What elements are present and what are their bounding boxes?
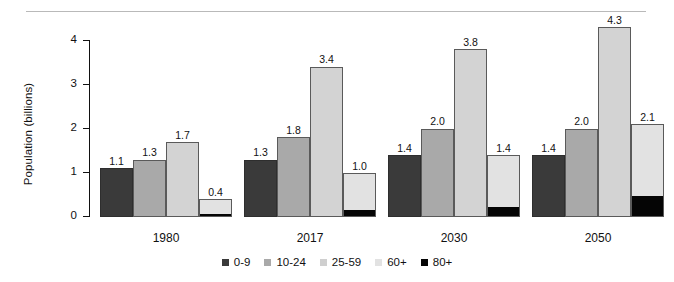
bar-2050-0-9[interactable] [532,155,565,217]
legend-label-10-24: 10-24 [276,256,305,268]
bar-2030-60plus[interactable] [487,155,520,217]
legend-label-60plus: 60+ [387,256,407,268]
bar-1980-25-59[interactable] [166,142,199,217]
legend-swatch-icon-80plus [421,259,428,266]
bar-1980-10-24[interactable] [133,160,166,218]
legend-swatch-icon-0-9 [222,259,229,266]
bar-label-2030-10-24: 2.0 [421,115,454,127]
bar-label-2050-60plus: 2.1 [631,111,664,123]
y-tick-label-0: 0 [57,209,77,221]
bar-label-2030-25-59: 3.8 [454,36,487,48]
bar-2030-80plus-segment[interactable] [488,207,519,216]
legend-item-10-24[interactable]: 10-24 [264,256,305,268]
y-tick-label-3: 3 [57,77,77,89]
bar-label-2030-60plus: 1.4 [487,142,520,154]
legend-item-25-59[interactable]: 25-59 [320,256,361,268]
bar-1980-80plus-segment[interactable] [200,214,231,216]
legend-item-60plus[interactable]: 60+ [375,256,407,268]
bar-label-2017-0-9: 1.3 [244,146,277,158]
bar-2017-0-9[interactable] [244,160,277,218]
bar-label-2050-25-59: 4.3 [598,14,631,26]
legend-label-25-59: 25-59 [332,256,361,268]
bar-2050-80plus-segment[interactable] [632,196,663,216]
x-axis-label-2050: 2050 [548,231,648,245]
bar-2017-25-59[interactable] [310,67,343,217]
chart-legend: 0-9 10-24 25-59 60+ 80+ [0,256,674,268]
bar-label-2030-0-9: 1.4 [388,142,421,154]
bar-2050-60plus[interactable] [631,124,664,217]
x-axis-label-2030: 2030 [404,231,504,245]
bar-1980-60plus[interactable] [199,199,232,217]
y-axis-title: Population (billions) [22,54,34,214]
bar-2017-80plus-segment[interactable] [344,210,375,216]
legend-swatch-icon-10-24 [264,259,271,266]
y-tick-label-4: 4 [57,33,77,45]
bar-2050-10-24[interactable] [565,129,598,218]
figure-canvas: Population (billions) 4 3 2 1 0 1.1 1.3 … [0,0,674,282]
y-tick-label-2: 2 [57,121,77,133]
plot-area: Population (billions) 4 3 2 1 0 1.1 1.3 … [0,0,674,282]
bar-label-2017-25-59: 3.4 [310,53,343,65]
legend-label-0-9: 0-9 [234,256,251,268]
bar-label-2017-60plus: 1.0 [343,160,376,172]
bar-label-2050-0-9: 1.4 [532,142,565,154]
bar-2030-0-9[interactable] [388,155,421,217]
y-tick-mark-1 [83,172,89,173]
bar-1980-0-9[interactable] [100,168,133,217]
bar-2030-10-24[interactable] [421,129,454,218]
y-tick-mark-3 [83,84,89,85]
y-tick-mark-4 [83,40,89,41]
bar-label-1980-0-9: 1.1 [100,155,133,167]
bar-label-2050-10-24: 2.0 [565,115,598,127]
bar-2030-25-59[interactable] [454,49,487,217]
y-tick-mark-0 [83,216,89,217]
bar-2050-25-59[interactable] [598,27,631,217]
bar-2017-10-24[interactable] [277,137,310,217]
bar-label-2017-10-24: 1.8 [277,124,310,136]
y-axis-line [89,40,90,217]
x-axis-label-2017: 2017 [260,231,360,245]
y-tick-mark-2 [83,128,89,129]
bar-label-1980-25-59: 1.7 [166,129,199,141]
bar-2017-60plus[interactable] [343,173,376,217]
x-axis-label-1980: 1980 [116,231,216,245]
bar-label-1980-60plus: 0.4 [199,186,232,198]
legend-item-0-9[interactable]: 0-9 [222,256,251,268]
y-tick-label-1: 1 [57,165,77,177]
bar-label-1980-10-24: 1.3 [133,146,166,158]
legend-swatch-icon-25-59 [320,259,327,266]
legend-label-80plus: 80+ [433,256,453,268]
legend-swatch-icon-60plus [375,259,382,266]
legend-item-80plus[interactable]: 80+ [421,256,453,268]
